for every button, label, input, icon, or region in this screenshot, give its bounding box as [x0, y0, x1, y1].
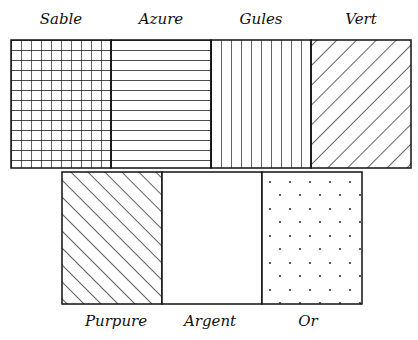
- cell-gules: [211, 40, 311, 168]
- cell-azure: [111, 40, 211, 168]
- label-argent: Argent: [160, 312, 260, 330]
- cell-or: [262, 172, 362, 304]
- label-or: Or: [258, 312, 358, 330]
- cell-vert: [311, 40, 411, 168]
- cell-purpure: [62, 172, 162, 304]
- tincture-diagram: [0, 0, 418, 340]
- cell-argent: [162, 172, 262, 304]
- label-purpure: Purpure: [66, 312, 166, 330]
- cell-sable: [11, 40, 111, 168]
